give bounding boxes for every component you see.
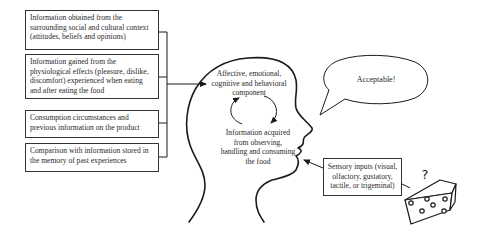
speech-bubble-icon [320, 55, 428, 115]
input-box-text: Consumption circumstances and previous i… [30, 113, 140, 132]
input-box-consumption-circumstances: Consumption circumstances and previous i… [25, 110, 159, 138]
input-box-text: Information gained from the physiologica… [30, 57, 149, 95]
question-mark-icon: ? [418, 168, 432, 182]
sensory-inputs-box: Sensory inputs (visual, olfactory, gusta… [323, 158, 402, 196]
head-upper-label: Affective, emotional, cognitive and beha… [208, 69, 290, 98]
input-box-text: Information obtained from the surroundin… [30, 13, 149, 41]
bracket-connector [159, 32, 167, 157]
diagram-canvas: Information obtained from the surroundin… [0, 0, 482, 232]
cheese-icon [405, 180, 456, 224]
cycle-arrow-right-icon [264, 96, 277, 123]
input-box-memory-comparison: Comparison with information stored in th… [25, 143, 159, 172]
cycle-arrow-left-icon [231, 98, 242, 124]
sensory-inputs-text: Sensory inputs (visual, olfactory, gusta… [328, 162, 397, 190]
input-box-physiological-effects: Information gained from the physiologica… [25, 54, 159, 99]
sensory-arrow [304, 160, 323, 168]
sensory-connector [402, 184, 410, 188]
speech-bubble-text: Acceptable! [345, 75, 407, 85]
input-box-social-context: Information obtained from the surroundin… [25, 10, 159, 50]
input-box-text: Comparison with information stored in th… [30, 146, 149, 165]
head-lower-label: Information acquired from observing, han… [220, 128, 296, 166]
